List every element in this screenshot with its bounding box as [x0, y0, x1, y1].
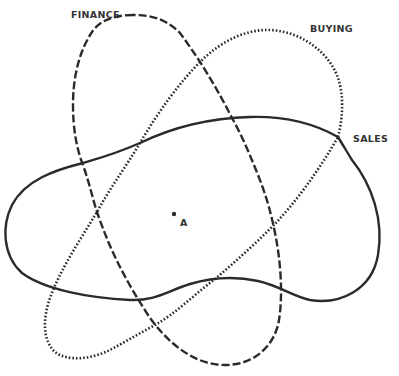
sales-label: SALES [353, 133, 388, 144]
finance-label: FINANCE [71, 9, 120, 20]
point-a-marker [172, 212, 176, 216]
buying-label: BUYING [310, 23, 353, 34]
point-a-label: A [180, 217, 188, 228]
finance-set-outline [73, 15, 281, 365]
buying-set-outline [45, 30, 342, 358]
venn-diagram: FINANCE BUYING SALES A [0, 0, 399, 376]
